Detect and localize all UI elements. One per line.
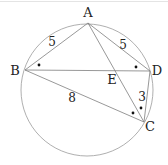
length-AB: 5 — [48, 35, 56, 49]
label-B: B — [10, 63, 20, 78]
segment-BC — [25, 70, 144, 122]
angle-ACD-mark — [140, 107, 143, 110]
segment-AB — [25, 23, 88, 70]
length-BC: 8 — [68, 91, 76, 105]
length-DC: 3 — [138, 90, 146, 104]
label-D: D — [152, 63, 162, 78]
angle-ABD-mark — [38, 64, 41, 67]
segment-BD — [25, 70, 150, 71]
circumcircle — [21, 24, 153, 156]
angle-ADB-mark — [135, 66, 138, 69]
label-A: A — [82, 5, 93, 20]
angle-ACB-mark — [132, 112, 135, 115]
label-E: E — [107, 72, 117, 87]
label-C: C — [145, 119, 155, 134]
geometry-diagram: A B D C E 5 5 8 3 — [0, 0, 168, 165]
length-AD: 5 — [119, 38, 127, 52]
